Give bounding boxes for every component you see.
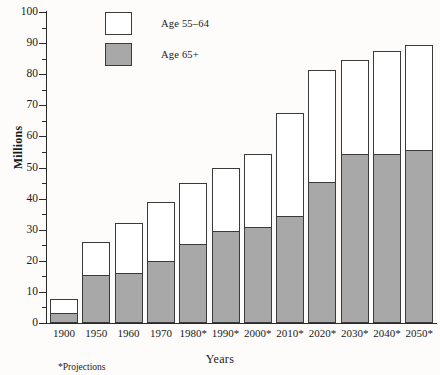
y-tick-label: 60: [4, 130, 38, 142]
y-tick-label: 10: [4, 286, 38, 298]
y-tick-label: 50: [4, 162, 38, 174]
y-tick-label: 90: [4, 37, 38, 49]
x-axis-line: [46, 323, 437, 324]
bar-segment-age-65-plus: [82, 275, 110, 323]
bar-chart: Age 55–64 Age 65+ Millions 0102030405060…: [0, 0, 440, 375]
chart-footnote: *Projections: [58, 362, 106, 372]
bar-segment-age-65-plus: [308, 182, 336, 324]
y-tick-label: 0: [4, 317, 38, 329]
y-tick-major: [39, 43, 47, 44]
y-tick-label: 100: [4, 6, 38, 18]
y-tick-label: 70: [4, 99, 38, 111]
y-tick-major: [39, 74, 47, 75]
bar-segment-age-65-plus: [50, 313, 78, 323]
y-tick-label: 40: [4, 193, 38, 205]
y-tick-major: [39, 105, 47, 106]
bar-segment-age-65-plus: [179, 244, 207, 323]
bar-segment-age-65-plus: [405, 150, 433, 323]
y-tick-major: [39, 292, 47, 293]
bar-segment-age-65-plus: [212, 231, 240, 323]
bar-segment-age-65-plus: [115, 273, 143, 323]
bar-segment-age-65-plus: [276, 216, 304, 323]
y-tick-label: 30: [4, 224, 38, 236]
y-tick-major: [39, 261, 47, 262]
y-tick-major: [39, 136, 47, 137]
bar-segment-age-65-plus: [147, 261, 175, 324]
y-tick-major: [39, 199, 47, 200]
x-tick-label: 2050*: [397, 327, 440, 339]
bar-segment-age-65-plus: [244, 227, 272, 323]
bar-segment-age-65-plus: [373, 154, 401, 323]
y-tick-major: [39, 230, 47, 231]
y-axis-title: Millions: [11, 108, 26, 188]
y-tick-major: [39, 12, 47, 13]
plot-area: [47, 12, 437, 323]
y-tick-label: 20: [4, 255, 38, 267]
y-tick-major: [39, 168, 47, 169]
bar-segment-age-65-plus: [341, 154, 369, 323]
y-tick-major: [39, 323, 47, 324]
y-tick-label: 80: [4, 68, 38, 80]
